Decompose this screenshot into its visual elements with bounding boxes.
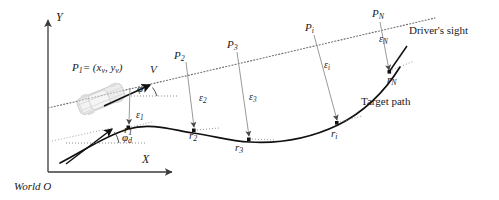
target-path-label: Target path bbox=[361, 96, 410, 107]
equation-close: ) bbox=[119, 61, 123, 73]
phid-subscript: d bbox=[128, 136, 132, 145]
rN-tangent-segment bbox=[389, 46, 407, 72]
ri-subscript: i bbox=[335, 132, 337, 141]
epsn-subscript: N bbox=[383, 38, 388, 46]
pn-symbol: P bbox=[372, 7, 379, 19]
epsilon-i-line bbox=[314, 35, 337, 120]
r3-subscript: 3 bbox=[239, 146, 243, 155]
world-origin-label: World O bbox=[14, 181, 51, 192]
epsilon-3-line bbox=[237, 52, 249, 136]
path-point-r2: r2 bbox=[189, 130, 197, 143]
p1-symbol: P bbox=[72, 61, 79, 73]
eps2-subscript: 2 bbox=[203, 97, 207, 105]
error-epsilon-3: ε3 bbox=[249, 92, 257, 104]
p2-subscript: 2 bbox=[181, 54, 185, 63]
path-point-ri: ri bbox=[331, 128, 337, 141]
phi-arc bbox=[153, 88, 158, 97]
epsilon-1-line bbox=[129, 88, 130, 124]
vehicle-position-equation: P1= (xv, yv) bbox=[72, 62, 123, 75]
velocity-label: V bbox=[150, 64, 157, 75]
preview-point-p2: P2 bbox=[174, 50, 185, 63]
eps3-subscript: 3 bbox=[253, 96, 257, 104]
pn-subscript: N bbox=[379, 12, 384, 21]
p3-subscript: 3 bbox=[234, 43, 238, 52]
error-epsilon-n: εN bbox=[379, 34, 388, 46]
p2-symbol: P bbox=[174, 49, 181, 61]
path-point-rn: rN bbox=[387, 74, 397, 87]
preview-point-pi: Pi bbox=[305, 22, 314, 35]
preview-point-p3: P3 bbox=[227, 39, 238, 52]
path-point-markers bbox=[127, 46, 415, 141]
preview-point-pn: PN bbox=[372, 8, 384, 21]
r1-subscript: 1 bbox=[128, 128, 132, 137]
equation-equals: = ( bbox=[83, 61, 97, 73]
y-axis-label: Y bbox=[56, 11, 63, 23]
error-epsilon-i: εi bbox=[324, 60, 330, 72]
heading-angle-label: φ bbox=[137, 83, 143, 94]
error-epsilon-1: ε1 bbox=[136, 110, 144, 122]
pi-subscript: i bbox=[312, 26, 314, 35]
x-axis-label: X bbox=[142, 153, 149, 165]
rn-subscript: N bbox=[391, 78, 396, 87]
path-point-r1: r1 bbox=[124, 124, 132, 137]
path-point-r3: r3 bbox=[235, 142, 243, 155]
phi-symbol: φ bbox=[137, 82, 143, 94]
p3-symbol: P bbox=[227, 38, 234, 50]
r2-subscript: 2 bbox=[193, 134, 197, 143]
epsilon-2-line bbox=[186, 62, 194, 127]
pi-symbol: P bbox=[305, 21, 312, 33]
drivers-sight-label: Driver's sight bbox=[409, 25, 468, 36]
epsi-subscript: i bbox=[328, 64, 330, 72]
eps1-subscript: 1 bbox=[140, 114, 144, 122]
figure-root: Y X World O P1= (xv, yv) V φ φd P2 P3 Pi… bbox=[0, 0, 499, 200]
error-epsilon-2: ε2 bbox=[199, 93, 207, 105]
target-path-curve bbox=[60, 67, 400, 163]
